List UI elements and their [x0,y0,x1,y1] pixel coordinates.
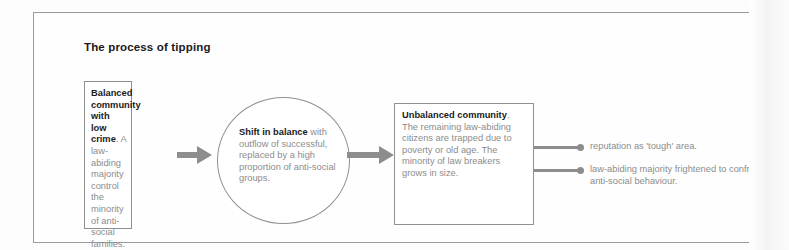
connector-dot-icon [577,144,584,151]
page-canvas: The process of tipping Balanced communit… [0,0,789,250]
connector-dot-icon [577,167,584,174]
node-unbalanced-community-text: Unbalanced community. The remaining law-… [402,110,527,180]
node-balanced-community: Balanced community with low crime. A law… [84,81,132,229]
node-unbalanced-community: Unbalanced community. The remaining law-… [394,103,534,225]
connector-line-outcome-2 [534,169,579,172]
arrow-right-icon [177,145,213,169]
figure-title: The process of tipping [84,41,211,53]
node-unbalanced-community-lead: Unbalanced community [402,110,507,120]
outcome-reputation: reputation as 'tough' area. [590,141,780,153]
node-shift-in-balance: Shift in balance with outflow of success… [217,97,350,224]
node-shift-in-balance-text: Shift in balance with outflow of success… [239,127,339,185]
node-balanced-community-text: Balanced community with low crime. A law… [91,88,127,250]
node-shift-in-balance-lead: Shift in balance [239,127,308,137]
page-gutter-shadow [749,0,789,250]
node-balanced-community-body: . A law-abiding majority control the min… [91,134,126,248]
arrow-right-icon [347,145,395,169]
connector-line-outcome-1 [534,146,579,149]
outcome-frightened-majority: law-abiding majority frightened to confr… [590,164,780,187]
figure-frame: The process of tipping Balanced communit… [33,12,753,243]
node-unbalanced-community-body: . The remaining law-abiding citizens are… [402,110,512,178]
